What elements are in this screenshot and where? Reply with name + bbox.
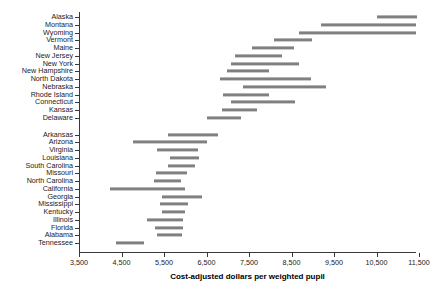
- range-bar-south-carolina: [168, 164, 195, 167]
- y-axis-tick: [75, 79, 79, 80]
- range-bar-maine: [252, 46, 294, 49]
- y-axis-tick: [75, 235, 79, 236]
- range-bar-vermont: [274, 39, 312, 42]
- range-bar-kansas: [222, 108, 256, 111]
- x-axis-tick: [334, 253, 335, 257]
- y-axis-tick: [75, 95, 79, 96]
- x-axis-tick: [79, 253, 80, 257]
- y-axis-tick: [75, 64, 79, 65]
- x-axis-tick: [419, 253, 420, 257]
- plot-area: AlaskaMontanaWyomingVermontMaineNew Jers…: [79, 12, 419, 252]
- range-bar-alabama: [157, 234, 182, 237]
- range-bar-rhode-island: [223, 93, 269, 96]
- chart-container: AlaskaMontanaWyomingVermontMaineNew Jers…: [0, 0, 437, 295]
- y-axis-tick: [75, 102, 79, 103]
- x-axis-tick-label: 7,500: [240, 259, 258, 266]
- y-axis-tick: [75, 150, 79, 151]
- y-axis-tick: [75, 220, 79, 221]
- x-axis-tick: [122, 253, 123, 257]
- range-bar-new-jersey: [235, 54, 282, 57]
- range-bar-nebraska: [243, 85, 326, 88]
- range-bar-wyoming: [299, 31, 416, 34]
- x-axis-tick-label: 10,500: [366, 259, 388, 266]
- x-axis-tick: [292, 253, 293, 257]
- y-axis-tick: [75, 71, 79, 72]
- y-axis-tick: [75, 87, 79, 88]
- range-bar-connecticut: [231, 101, 295, 104]
- x-axis-tick-label: 3,500: [70, 259, 88, 266]
- y-axis-tick: [75, 212, 79, 213]
- y-axis-tick: [75, 228, 79, 229]
- range-bar-north-carolina: [154, 179, 181, 182]
- y-axis-tick: [75, 118, 79, 119]
- range-bar-mississippi: [160, 203, 188, 206]
- range-bar-new-hampshire: [227, 70, 269, 73]
- x-axis-tick-label: 4,500: [113, 259, 131, 266]
- range-bar-north-dakota: [220, 77, 311, 80]
- x-axis-tick-label: 9,500: [325, 259, 343, 266]
- range-bar-montana: [321, 23, 415, 26]
- y-axis-tick: [75, 40, 79, 41]
- x-axis-tick-label: 5,500: [155, 259, 173, 266]
- y-axis-tick: [75, 25, 79, 26]
- x-axis-tick-label: 6,500: [198, 259, 216, 266]
- x-axis-tick: [249, 253, 250, 257]
- range-bar-delaware: [207, 116, 241, 119]
- x-axis-tick: [164, 253, 165, 257]
- y-axis-tick: [75, 33, 79, 34]
- y-axis-tick: [75, 142, 79, 143]
- category-label-tennessee: Tennessee: [38, 239, 73, 246]
- y-axis-tick: [75, 173, 79, 174]
- range-bar-virginia: [157, 148, 198, 151]
- range-bar-illinois: [147, 218, 183, 221]
- range-bar-florida: [155, 226, 183, 229]
- y-axis-tick: [75, 166, 79, 167]
- range-bar-georgia: [162, 195, 202, 198]
- range-bar-california: [110, 187, 185, 190]
- range-bar-new-york: [231, 62, 299, 65]
- y-axis-tick: [75, 189, 79, 190]
- range-bar-kentucky: [162, 210, 185, 213]
- y-axis-tick: [75, 181, 79, 182]
- range-bar-arizona: [133, 141, 207, 144]
- y-axis-tick: [75, 17, 79, 18]
- range-bar-tennessee: [116, 241, 144, 244]
- x-axis-tick-label: 11,500: [408, 259, 429, 266]
- x-axis-tick-label: 8,500: [283, 259, 301, 266]
- x-axis-tick: [207, 253, 208, 257]
- range-bar-arkansas: [168, 133, 217, 136]
- y-axis-tick: [75, 48, 79, 49]
- y-axis-tick: [75, 56, 79, 57]
- x-axis-title: Cost-adjusted dollars per weighted pupil: [79, 273, 416, 281]
- y-axis-tick: [75, 204, 79, 205]
- range-bar-alaska: [377, 15, 417, 18]
- y-axis-tick: [75, 158, 79, 159]
- y-axis-tick: [75, 110, 79, 111]
- y-axis-tick: [75, 243, 79, 244]
- range-bar-louisiana: [170, 156, 198, 159]
- range-bar-missouri: [156, 172, 187, 175]
- x-axis-line: [79, 252, 416, 253]
- x-axis-tick: [377, 253, 378, 257]
- category-label-delaware: Delaware: [43, 114, 73, 121]
- y-axis-tick: [75, 197, 79, 198]
- y-axis-tick: [75, 135, 79, 136]
